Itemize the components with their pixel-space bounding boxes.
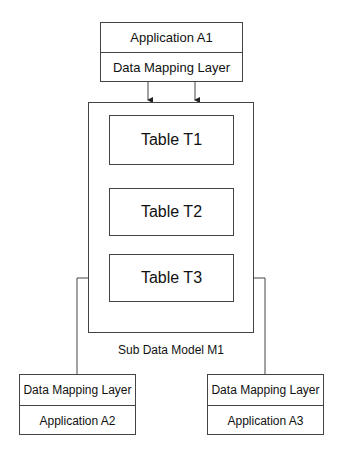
application-a1-component: Application A1 Data Mapping Layer [100, 22, 243, 82]
table-t1-label: Table T1 [110, 116, 233, 164]
table-t3: Table T3 [109, 254, 234, 302]
a2-mapping-layer-label: Data Mapping Layer [20, 375, 135, 405]
sub-model-label: Sub Data Model M1 [88, 343, 254, 357]
application-a3-label: Application A3 [208, 405, 323, 435]
top-mapping-layer-label: Data Mapping Layer [101, 52, 242, 82]
table-t2-label: Table T2 [110, 189, 233, 235]
a3-mapping-layer-label: Data Mapping Layer [208, 375, 323, 405]
table-t3-label: Table T3 [110, 255, 233, 301]
application-a2-component: Data Mapping Layer Application A2 [19, 374, 136, 435]
application-a3-component: Data Mapping Layer Application A3 [207, 374, 324, 435]
table-t2: Table T2 [109, 188, 234, 236]
table-t1: Table T1 [109, 115, 234, 165]
application-a2-label: Application A2 [20, 405, 135, 435]
application-a1-label: Application A1 [101, 23, 242, 52]
